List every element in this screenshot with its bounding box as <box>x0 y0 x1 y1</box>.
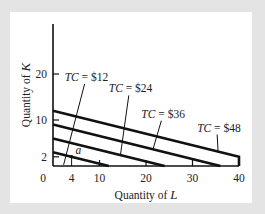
x-tick-label-20: 20 <box>140 172 152 184</box>
callout-line-1 <box>64 84 85 165</box>
y-tick-label-2: 2 <box>41 151 47 163</box>
x-tick-label-0: 0 <box>40 172 46 184</box>
figure-panel: TC = $12TC = $24TC = $36TC = $48 2102004… <box>10 12 252 203</box>
tc-label-3: TC = $36 <box>141 108 185 120</box>
x-tick-label-30: 30 <box>187 172 199 184</box>
callout-line-4 <box>217 135 218 152</box>
tc-label-4: TC = $48 <box>197 122 241 134</box>
y-tick-label-10: 10 <box>36 114 48 126</box>
y-axis-title: Quantity of K <box>18 62 33 128</box>
callout-line-2 <box>120 95 128 155</box>
point-a-label: a <box>76 144 82 156</box>
x-axis-title: Quantity of L <box>115 187 178 202</box>
tc-label-1: TC = $12 <box>65 71 109 83</box>
x-tick-label-10: 10 <box>94 172 106 184</box>
isocost-chart: TC = $12TC = $24TC = $36TC = $48 2102004… <box>10 12 252 203</box>
x-tick-label-40: 40 <box>233 172 245 184</box>
annotations: a <box>70 144 82 166</box>
x-tick-label-4: 4 <box>69 172 75 184</box>
y-tick-label-20: 20 <box>36 68 48 80</box>
point-a-marker <box>70 155 74 159</box>
tc-label-2: TC = $24 <box>109 82 153 94</box>
